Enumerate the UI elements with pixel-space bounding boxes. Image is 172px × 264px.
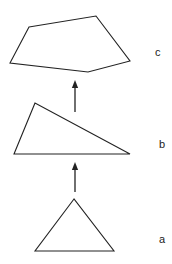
- shape-a-triangle: [35, 199, 114, 251]
- shape-c-pentagon: [10, 16, 130, 72]
- diagram-canvas: c b a: [0, 0, 172, 264]
- shape-b-triangle: [14, 103, 130, 154]
- label-b: b: [159, 138, 165, 150]
- diagram-svg: c b a: [0, 0, 172, 264]
- label-a: a: [159, 233, 166, 245]
- label-c: c: [155, 46, 161, 58]
